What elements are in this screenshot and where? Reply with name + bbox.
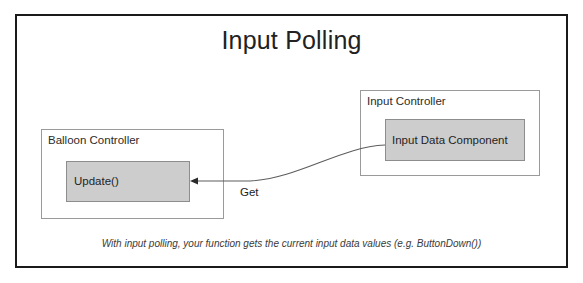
slide-canvas: Input Polling Balloon Controller Update(… bbox=[0, 0, 583, 283]
balloon-controller-label: Balloon Controller bbox=[48, 134, 139, 146]
slide-caption: With input polling, your function gets t… bbox=[0, 238, 583, 249]
page-title: Input Polling bbox=[0, 26, 583, 55]
update-component-label: Update() bbox=[74, 175, 119, 187]
input-controller-label: Input Controller bbox=[367, 95, 446, 107]
input-data-component-label: Input Data Component bbox=[392, 134, 508, 146]
get-connector-label: Get bbox=[240, 186, 259, 198]
